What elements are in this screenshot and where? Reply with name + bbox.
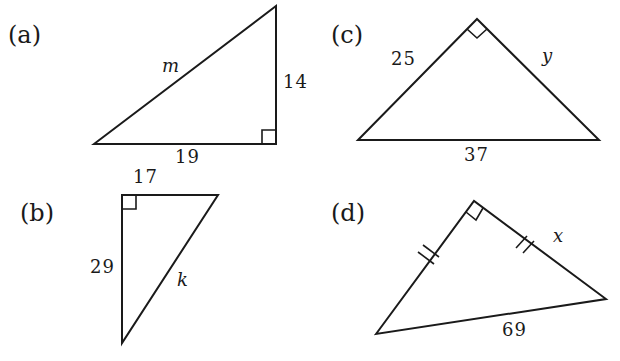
triangle-c: (c) 25 y 37 [331,19,599,165]
side-19: 19 [175,146,200,167]
side-m: m [162,55,179,76]
side-69: 69 [502,319,527,340]
side-y: y [541,45,553,66]
side-14: 14 [283,71,308,92]
triangle-d-shape [376,201,606,334]
label-b: (b) [20,199,54,227]
side-k: k [177,269,188,290]
right-angle-marker-a [262,130,276,144]
triangle-a-shape [94,6,276,144]
side-25: 25 [391,48,416,69]
label-a: (a) [8,21,41,49]
triangle-b: (b) 17 29 k [20,166,218,343]
right-triangles-diagram: (a) m 14 19 (b) 17 29 k (c) 25 y 37 (d) … [0,0,620,361]
label-d: (d) [331,199,365,227]
side-17: 17 [133,166,158,187]
tick-mark-right-2 [523,241,534,253]
side-29: 29 [90,256,115,277]
triangle-a: (a) m 14 19 [8,6,308,167]
tick-mark-right-1 [516,236,527,248]
right-angle-marker-b [122,195,136,209]
side-x: x [553,225,563,246]
triangle-b-shape [122,195,218,343]
right-angle-marker-c [467,29,487,38]
triangle-d: (d) x 69 [331,199,606,340]
label-c: (c) [331,21,363,49]
side-37: 37 [464,144,489,165]
